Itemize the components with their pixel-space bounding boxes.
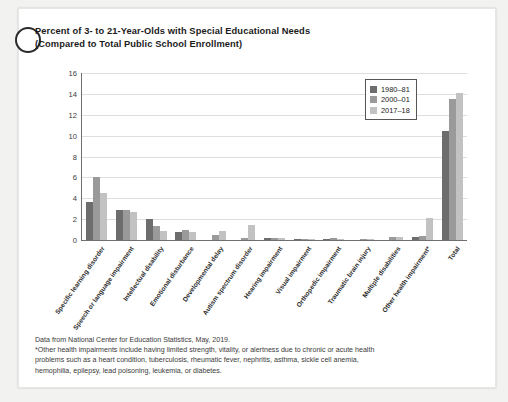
- bar: [146, 219, 153, 240]
- bar: [271, 238, 278, 240]
- bar: [212, 235, 219, 240]
- bar: [175, 232, 182, 240]
- bar-group: [260, 73, 290, 240]
- bar-group: [289, 73, 319, 240]
- chart-card: Percent of 3- to 21-Year-Olds with Speci…: [18, 8, 496, 388]
- bar: [123, 210, 130, 240]
- bar: [323, 239, 330, 240]
- bar: [308, 239, 315, 240]
- legend-swatch-icon: [370, 107, 377, 114]
- bar: [396, 237, 403, 240]
- x-tick-label: Autism spectrum disorder: [201, 245, 254, 316]
- bar: [219, 231, 226, 240]
- y-tick-label: 12: [69, 110, 77, 119]
- bar-group: [230, 73, 260, 240]
- bar: [449, 99, 456, 240]
- chart-title: Percent of 3- to 21-Year-Olds with Speci…: [35, 25, 465, 50]
- x-tick-label: Speech or language impairment: [72, 245, 135, 331]
- bar: [389, 237, 396, 240]
- legend-swatch-icon: [370, 96, 377, 103]
- bar-group: [171, 73, 201, 240]
- x-tick-label: Total: [446, 245, 460, 262]
- bar: [419, 236, 426, 240]
- bar-group: [437, 73, 467, 240]
- bar: [86, 202, 93, 240]
- y-tick-label: 10: [69, 131, 77, 140]
- bar-group: [141, 73, 171, 240]
- y-tick-label: 2: [73, 215, 77, 224]
- legend-label: 2000–01: [381, 95, 410, 104]
- y-tick-label: 0: [73, 236, 77, 245]
- x-tick-label: Specific learning disorder: [53, 245, 105, 315]
- chart-title-line-2: (Compared to Total Public School Enrollm…: [35, 38, 465, 51]
- y-tick-label: 6: [73, 173, 77, 182]
- footnote-note-line-3: hemophilia, epilepsy, lead poisoning, le…: [35, 366, 473, 376]
- legend-label: 2017–18: [381, 106, 410, 115]
- bar: [189, 232, 196, 240]
- bar: [456, 93, 463, 240]
- bar: [182, 230, 189, 240]
- y-tick-label: 8: [73, 152, 77, 161]
- bar: [160, 231, 167, 240]
- bar: [153, 226, 160, 240]
- y-tick-label: 16: [69, 69, 77, 78]
- bar-group: [200, 73, 230, 240]
- footnote-note-line-2: problems such as a heart condition, tube…: [35, 355, 473, 365]
- legend-label: 1980–81: [381, 85, 410, 94]
- bar: [278, 238, 285, 240]
- x-axis-tick-labels: Specific learning disorderSpeech or lang…: [81, 243, 467, 327]
- chart-legend: 1980–812000–012017–18: [365, 79, 417, 120]
- bar-group: [319, 73, 349, 240]
- chart-title-line-1: Percent of 3- to 21-Year-Olds with Speci…: [35, 25, 465, 38]
- bar: [241, 238, 248, 240]
- bar: [367, 239, 374, 240]
- bar: [248, 225, 255, 240]
- bar: [301, 239, 308, 240]
- bar: [264, 238, 271, 240]
- bar: [442, 131, 449, 240]
- bar: [130, 212, 137, 240]
- bar: [337, 239, 344, 240]
- footnote-note-line-1: *Other health impairments include having…: [35, 345, 473, 355]
- bar-group: [82, 73, 112, 240]
- legend-item: 2000–01: [370, 95, 410, 104]
- bar: [100, 193, 107, 240]
- bar: [294, 239, 301, 240]
- footnote-source: Data from National Center for Education …: [35, 335, 473, 345]
- bar: [116, 210, 123, 240]
- legend-swatch-icon: [370, 86, 377, 93]
- bar: [412, 237, 419, 240]
- bar: [360, 239, 367, 240]
- bar: [93, 177, 100, 240]
- bar: [426, 218, 433, 240]
- bar-group: [112, 73, 142, 240]
- legend-item: 1980–81: [370, 85, 410, 94]
- chart-footnote: Data from National Center for Education …: [35, 335, 473, 376]
- y-tick-label: 14: [69, 89, 77, 98]
- legend-item: 2017–18: [370, 106, 410, 115]
- y-tick-label: 4: [73, 194, 77, 203]
- chart-plot-area: 0246810121416 Specific learning disorder…: [35, 57, 481, 257]
- page-background: Percent of 3- to 21-Year-Olds with Speci…: [0, 0, 508, 402]
- bar: [330, 238, 337, 240]
